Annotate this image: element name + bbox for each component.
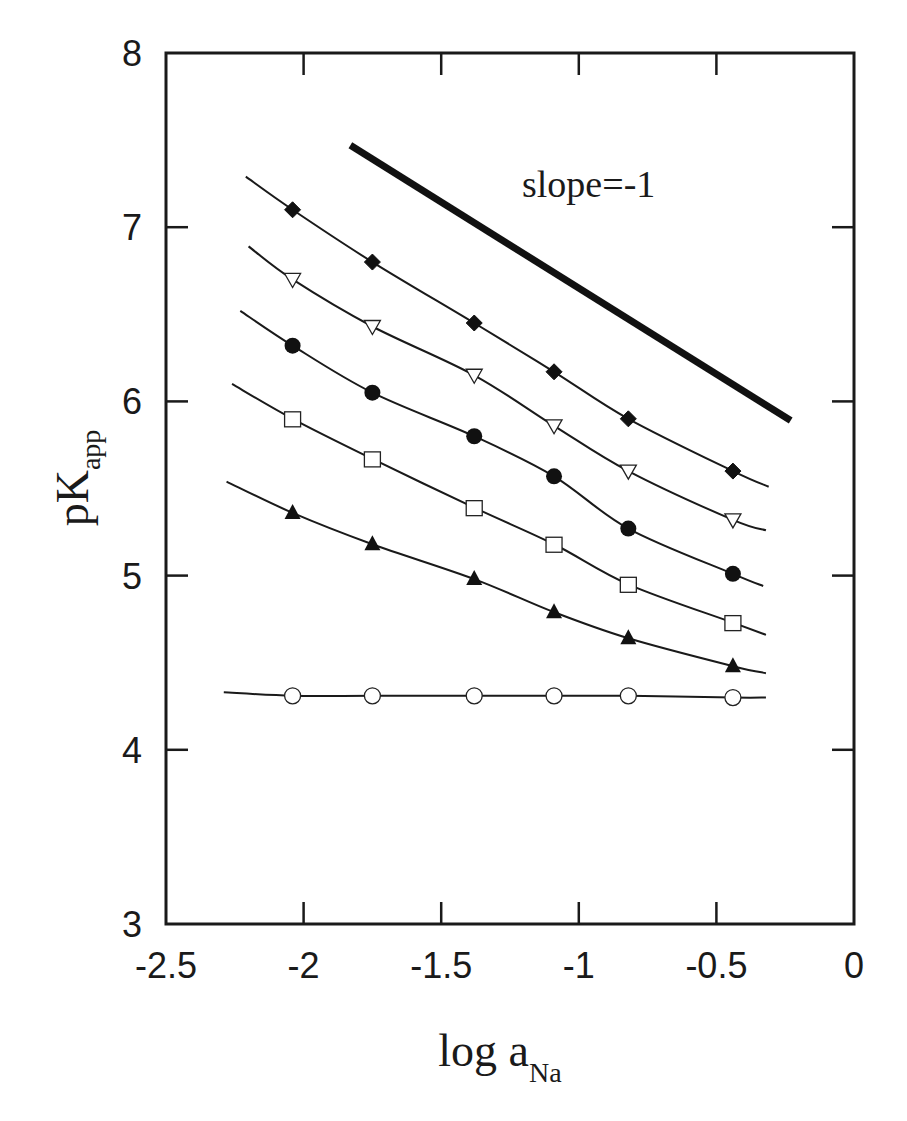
x-axis-title-subscript: Na <box>529 1057 562 1088</box>
open-circle-marker <box>546 688 562 704</box>
square-marker <box>546 537 562 552</box>
filled-circle-marker <box>466 428 482 444</box>
x-tick-label: -1 <box>563 945 595 986</box>
square-marker <box>364 452 380 467</box>
x-axis-title: log aNa <box>438 1025 562 1088</box>
square-marker <box>466 501 482 516</box>
diamond-marker <box>466 315 482 331</box>
open-circle-marker <box>466 688 482 704</box>
open-circle-marker <box>285 688 301 704</box>
plot-frame <box>166 53 854 924</box>
square-marker <box>285 412 301 427</box>
fit-curve <box>227 482 766 674</box>
x-tick-label: 0 <box>844 945 864 986</box>
open-circle-marker <box>364 688 380 704</box>
triangle-down-marker <box>364 320 380 334</box>
slope-annotation: slope=-1 <box>522 163 655 205</box>
fit-curves <box>224 177 769 698</box>
chart: -2.5-2-1.5-1-0.50345678 slope=-1 pKapp l… <box>0 0 907 1121</box>
x-tick-label: -0.5 <box>685 945 747 986</box>
axis-ticks: -2.5-2-1.5-1-0.50345678 <box>122 33 864 986</box>
filled-circle-marker <box>725 566 741 582</box>
fit-curve <box>246 177 769 487</box>
y-tick-label: 7 <box>122 207 142 248</box>
open-circle-marker <box>725 690 741 706</box>
svg-text:pKapp: pKapp <box>47 430 106 527</box>
y-axis-title-main: pK <box>47 470 98 526</box>
square-marker <box>620 577 636 592</box>
filled-circle-marker <box>546 468 562 484</box>
y-tick-label: 5 <box>122 556 142 597</box>
y-axis-title-subscript: app <box>75 430 106 470</box>
triangle-down-marker <box>546 420 562 434</box>
filled-circle-marker <box>364 385 380 401</box>
diamond-marker <box>620 411 636 427</box>
x-tick-label: -1.5 <box>410 945 472 986</box>
plot-border <box>166 53 854 924</box>
diamond-marker <box>546 364 562 380</box>
fit-curve <box>232 384 766 635</box>
square-marker <box>725 616 741 631</box>
x-axis-title-main: log a <box>438 1025 529 1076</box>
diamond-marker <box>364 254 380 270</box>
fit-curve <box>224 692 766 697</box>
triangle-down-marker <box>620 465 636 479</box>
fit-curve <box>249 246 766 530</box>
y-tick-label: 6 <box>122 381 142 422</box>
filled-circle-marker <box>285 338 301 354</box>
y-tick-label: 4 <box>122 730 142 771</box>
y-axis-title: pKapp <box>47 430 106 527</box>
open-circle-marker <box>620 688 636 704</box>
triangle-down-marker <box>725 514 741 528</box>
y-tick-label: 8 <box>122 33 142 74</box>
diamond-marker <box>725 463 741 479</box>
x-tick-label: -2.5 <box>135 945 197 986</box>
triangle-down-marker <box>466 369 482 383</box>
y-tick-label: 3 <box>122 904 142 945</box>
triangle-down-marker <box>285 273 301 287</box>
x-tick-label: -2 <box>288 945 320 986</box>
diamond-marker <box>285 202 301 218</box>
filled-circle-marker <box>620 521 636 537</box>
